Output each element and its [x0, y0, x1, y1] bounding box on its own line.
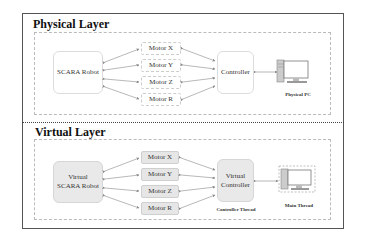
- virtual-motor-r-label: Motor R: [148, 204, 172, 213]
- virtual-scara-robot-node: VirtualSCARA Robot: [53, 161, 103, 203]
- virtual-robot-label-line2: SCARA Robot: [57, 182, 99, 190]
- virtual-motor-y-node: Motor Y: [141, 168, 179, 181]
- virtual-motor-x-label: Motor X: [148, 153, 172, 162]
- virtual-motor-r-node: Motor R: [141, 202, 179, 215]
- layer-divider: [22, 122, 344, 123]
- main-thread-pc-icon: [278, 165, 318, 197]
- virtual-controller-node: VirtualController: [217, 159, 254, 202]
- motor-z-label: Motor Z: [149, 78, 173, 87]
- virtual-controller-label-line2: Controller: [221, 181, 250, 189]
- motor-r-node: Motor R: [141, 93, 181, 106]
- virtual-controller-label-line1: Virtual: [226, 172, 245, 180]
- virtual-motor-x-node: Motor X: [141, 151, 179, 164]
- physical-pc-icon: [275, 58, 315, 88]
- virtual-motor-z-label: Motor Z: [148, 187, 172, 196]
- motor-z-node: Motor Z: [141, 76, 181, 89]
- controller-label: Controller: [221, 68, 250, 77]
- motor-r-label: Motor R: [149, 95, 173, 104]
- main-thread-label: Main Thread: [280, 203, 318, 208]
- motor-y-label: Motor Y: [149, 61, 173, 70]
- scara-robot-label: SCARA Robot: [57, 68, 99, 77]
- scara-robot-node: SCARA Robot: [53, 51, 103, 94]
- motor-x-label: Motor X: [149, 44, 173, 53]
- controller-node: Controller: [217, 51, 254, 94]
- controller-thread-label: Controller Thread: [208, 207, 264, 212]
- motor-y-node: Motor Y: [141, 59, 181, 72]
- physical-layer-title: Physical Layer: [33, 17, 109, 32]
- virtual-layer-title: Virtual Layer: [35, 125, 106, 140]
- motor-x-node: Motor X: [141, 42, 181, 55]
- virtual-motor-y-label: Motor Y: [148, 170, 172, 179]
- virtual-motor-z-node: Motor Z: [141, 185, 179, 198]
- physical-pc-label: Physical PC: [278, 92, 318, 97]
- virtual-robot-label-line1: Virtual: [68, 173, 87, 181]
